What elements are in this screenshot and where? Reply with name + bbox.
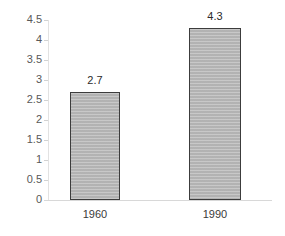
y-axis-tick-mark (44, 40, 48, 41)
category-label-1990: 1990 (177, 208, 253, 220)
y-axis-tick-mark (44, 180, 48, 181)
bar-1990[interactable] (189, 28, 241, 200)
x-axis-line (44, 200, 272, 201)
y-axis-tick-label: 3 (2, 74, 42, 85)
category-label-1960: 1960 (58, 208, 132, 220)
y-axis-tick-label: 4 (2, 34, 42, 45)
y-axis-line (48, 20, 49, 201)
y-axis-tick-mark (44, 20, 48, 21)
y-axis-tick-label: 1 (2, 154, 42, 165)
bar-chart: 00.511.522.533.544.5 2.7 4.3 1960 1990 (0, 0, 285, 236)
y-axis-tick-mark (44, 100, 48, 101)
value-label-1990: 4.3 (189, 11, 241, 22)
y-axis-tick-label: 4.5 (2, 14, 42, 25)
y-axis-tick-mark (44, 140, 48, 141)
bar-1960[interactable] (70, 92, 120, 200)
y-axis-tick-label: 0.5 (2, 174, 42, 185)
value-label-1960: 2.7 (70, 75, 120, 86)
y-axis-tick-label: 3.5 (2, 54, 42, 65)
y-axis-tick-label: 1.5 (2, 134, 42, 145)
y-axis-tick-label: 2 (2, 114, 42, 125)
y-axis-tick-mark (44, 160, 48, 161)
y-axis-tick-mark (44, 60, 48, 61)
y-axis-tick-label: 2.5 (2, 94, 42, 105)
y-axis-tick-mark (44, 80, 48, 81)
y-axis-tick-label: 0 (2, 194, 42, 205)
y-axis-tick-mark (44, 120, 48, 121)
plot-area: 00.511.522.533.544.5 2.7 4.3 1960 1990 (0, 0, 285, 236)
